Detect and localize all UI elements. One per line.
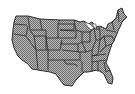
- us-map-icon: [0, 0, 135, 94]
- us-outline: [12, 8, 127, 86]
